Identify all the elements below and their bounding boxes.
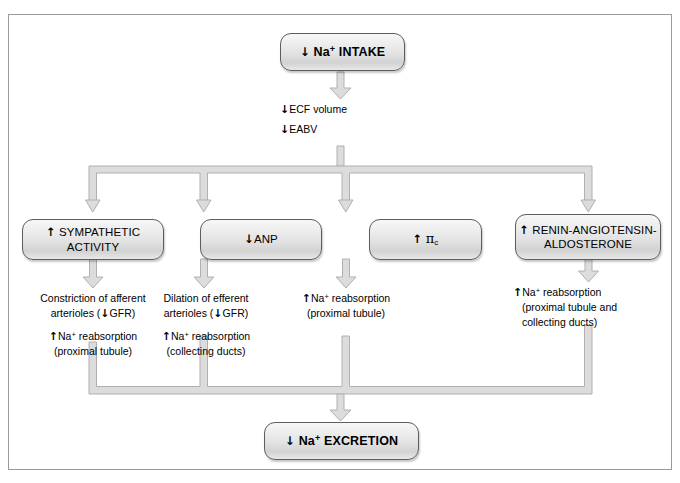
node-anp[interactable]: ↓ANP [200,219,322,260]
effect-raas-line2: (proximal tubule and [513,300,673,315]
effect-raas-line3: collecting ducts) [513,315,673,330]
node-na-intake-text: Na+ INTAKE [314,45,386,59]
node-sympathetic-line2: ACTIVITY [67,241,120,253]
effect-anp-bottom-line2: (collecting ducts) [128,344,284,359]
node-renin-angiotensin-aldosterone[interactable]: ↑ RENIN-ANGIOTENSIN- ALDOSTERONE [515,214,661,260]
effect-anp-top-line2: arterioles (↓GFR) [128,306,284,321]
effect-raas-line1: ↑Na+ reabsorption [513,285,673,300]
effect-block-raas: ↑Na+ reabsorption (proximal tubule and c… [513,285,673,330]
node-raas-line2: ALDOSTERONE [544,238,632,250]
effect-anp-bottom-line1: ↑Na+ reabsorption [128,329,284,344]
down-arrow-icon: ↓ [213,307,222,320]
node-sympathetic-activity[interactable]: ↑ SYMPATHETIC ACTIVITY [22,219,164,260]
effect-anp-top-line1: Dilation of efferent [128,291,284,306]
up-arrow-icon: ↑ [513,286,522,299]
effect-block-oncotic: ↑Na+ reabsorption (proximal tubule) [268,291,424,321]
up-arrow-icon: ↑ [46,225,56,239]
down-arrow-icon: ↓ [285,434,295,448]
node-na-excretion-text: Na+ EXCRETION [299,434,399,448]
node-na-intake[interactable]: ↓ Na+ INTAKE [280,33,405,71]
down-arrow-icon: ↓ [244,232,254,246]
node-anp-label: ANP [254,233,278,245]
stem-line-ecf-volume: ↓ECF volume [280,102,420,117]
up-arrow-icon: ↑ [162,330,171,343]
pi-symbol: π [426,231,435,246]
flowchart-canvas: ↓ Na+ INTAKE ↑ SYMPATHETIC ACTIVITY ↓ANP… [0,0,680,483]
node-sympathetic-line1: SYMPATHETIC [59,226,140,238]
up-arrow-icon: ↑ [519,223,529,237]
stem-line-eabv: ↓EABV [280,122,420,137]
node-na-excretion[interactable]: ↓ Na+ EXCRETION [264,422,419,460]
effect-oncotic-line2: (proximal tubule) [268,306,424,321]
down-arrow-icon: ↓ [280,103,289,116]
stem-text-block: ↓ECF volume ↓EABV [280,102,420,137]
node-na-intake-label: ↓ Na+ INTAKE [300,44,386,60]
node-raas-line1: RENIN-ANGIOTENSIN- [532,224,656,236]
up-arrow-icon: ↑ [413,232,423,246]
down-arrow-icon: ↓ [100,307,109,320]
effect-block-anp: Dilation of efferent arterioles (↓GFR) ↑… [128,291,284,359]
node-oncotic-pressure[interactable]: ↑ πc [369,219,482,260]
up-arrow-icon: ↑ [302,292,311,305]
effect-oncotic-line1: ↑Na+ reabsorption [268,291,424,306]
pi-subscript: c [434,238,438,247]
up-arrow-icon: ↑ [49,330,58,343]
down-arrow-icon: ↓ [280,123,289,136]
down-arrow-icon: ↓ [300,45,310,59]
